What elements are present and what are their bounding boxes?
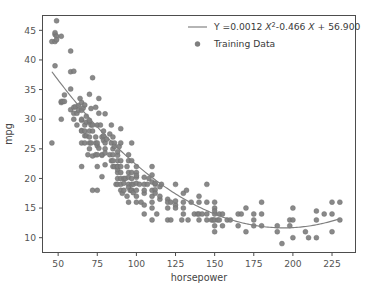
- data-point: [290, 217, 295, 222]
- data-point: [212, 223, 217, 228]
- data-point: [103, 150, 108, 155]
- data-point: [71, 69, 76, 74]
- data-point: [96, 96, 101, 101]
- data-point: [173, 206, 178, 211]
- y-tick-label: 40: [24, 54, 36, 65]
- data-point: [217, 217, 222, 222]
- data-point: [137, 182, 142, 187]
- data-point: [71, 117, 76, 122]
- data-point: [98, 123, 103, 128]
- data-point: [59, 117, 64, 122]
- data-point: [90, 129, 95, 134]
- data-point: [204, 217, 209, 222]
- data-point: [125, 164, 130, 169]
- data-point: [275, 229, 280, 234]
- data-point: [181, 206, 186, 211]
- x-tick-label: 50: [52, 258, 64, 269]
- data-point: [129, 170, 134, 175]
- figure-container: 50751001251501752002251015202530354045ho…: [0, 0, 371, 297]
- data-point: [337, 217, 342, 222]
- data-point: [197, 200, 202, 205]
- data-point: [118, 140, 123, 145]
- data-point: [157, 194, 162, 199]
- data-point: [330, 229, 335, 234]
- y-tick-label: 30: [24, 113, 36, 124]
- data-point: [153, 191, 158, 196]
- data-point: [89, 140, 94, 145]
- data-point: [85, 152, 90, 157]
- data-point: [121, 188, 126, 193]
- data-point: [129, 140, 134, 145]
- data-point: [82, 129, 87, 134]
- data-point: [79, 117, 84, 122]
- data-point: [314, 235, 319, 240]
- data-point: [212, 200, 217, 205]
- data-point: [173, 198, 178, 203]
- data-point: [90, 75, 95, 80]
- data-point: [220, 223, 225, 228]
- data-point: [142, 175, 147, 180]
- data-point: [330, 211, 335, 216]
- data-point: [142, 211, 147, 216]
- data-point: [279, 241, 284, 246]
- data-point: [181, 211, 186, 216]
- x-axis-title: horsepower: [171, 272, 228, 283]
- data-point: [134, 200, 139, 205]
- data-point: [87, 146, 92, 151]
- data-point: [150, 217, 155, 222]
- data-point: [184, 188, 189, 193]
- data-point: [118, 126, 123, 131]
- y-tick-label: 15: [24, 202, 36, 213]
- data-point: [251, 211, 256, 216]
- data-point: [82, 102, 87, 107]
- data-point: [259, 200, 264, 205]
- data-point: [197, 194, 202, 199]
- data-point: [95, 164, 100, 169]
- data-point: [165, 206, 170, 211]
- data-point: [173, 182, 178, 187]
- data-point: [79, 164, 84, 169]
- data-point: [168, 200, 173, 205]
- data-point: [118, 170, 123, 175]
- data-point: [74, 123, 79, 128]
- data-point: [118, 164, 123, 169]
- x-tick-label: 200: [284, 258, 302, 269]
- data-point: [109, 123, 114, 128]
- data-point: [142, 203, 147, 208]
- data-point: [150, 206, 155, 211]
- data-point: [99, 174, 104, 179]
- data-point: [103, 162, 108, 167]
- legend-label-training-data: Training Data: [213, 38, 275, 49]
- data-point: [186, 217, 191, 222]
- data-point: [62, 92, 67, 97]
- data-point: [145, 182, 150, 187]
- data-point: [303, 229, 308, 234]
- legend-marker-training-data: [195, 42, 200, 47]
- data-point: [82, 140, 87, 145]
- data-point: [96, 111, 101, 116]
- data-point: [314, 217, 319, 222]
- y-tick-label: 10: [24, 232, 36, 243]
- y-tick-label: 35: [24, 84, 36, 95]
- data-point: [204, 200, 209, 205]
- data-point: [330, 200, 335, 205]
- data-point: [62, 99, 67, 104]
- data-point: [95, 188, 100, 193]
- data-point: [290, 206, 295, 211]
- data-point: [68, 86, 73, 91]
- data-point: [54, 18, 59, 23]
- data-point: [150, 164, 155, 169]
- y-tick-label: 25: [24, 143, 36, 154]
- data-point: [118, 158, 123, 163]
- x-tick-label: 175: [245, 258, 263, 269]
- legend-label-fit: Y =0.0012 X2 -0.466 X + 56.900: [213, 21, 360, 33]
- data-point: [337, 200, 342, 205]
- data-point: [129, 176, 134, 181]
- data-point: [59, 34, 64, 39]
- data-point: [121, 181, 126, 186]
- data-point: [68, 49, 73, 54]
- data-point: [93, 105, 98, 110]
- data-point: [110, 158, 115, 163]
- data-point: [87, 92, 92, 97]
- data-point: [110, 134, 115, 139]
